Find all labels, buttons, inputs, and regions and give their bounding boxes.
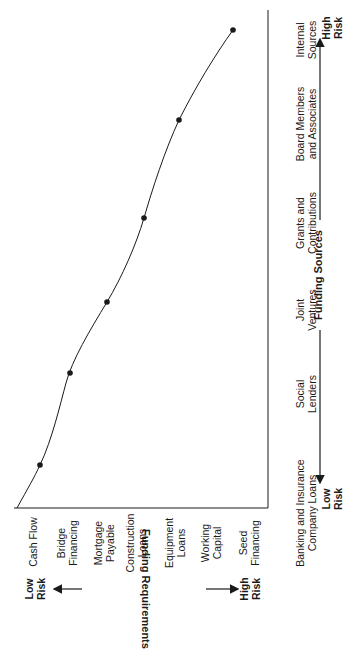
requirement-label-equipment-loans: Equipment Loans bbox=[164, 511, 190, 575]
data-point-banking bbox=[37, 462, 43, 468]
requirement-label-line: Financing bbox=[250, 513, 262, 573]
risk-label-line: Risk bbox=[333, 10, 345, 46]
requirement-label-line: Loans bbox=[176, 511, 188, 575]
sources-high-risk-label: High Risk bbox=[321, 10, 347, 46]
source-label-internal-sources: Internal Sources bbox=[295, 0, 321, 85]
requirement-label-line: Equipment bbox=[164, 511, 176, 575]
source-label-banking: Banking and Insurance Company Loans bbox=[295, 453, 321, 573]
source-label-line: Grants and bbox=[295, 168, 307, 278]
data-point-grants bbox=[141, 215, 147, 221]
risk-label-line: High bbox=[239, 571, 251, 607]
source-label-line: Sources bbox=[307, 0, 319, 85]
source-label-line: Lenders bbox=[307, 349, 319, 439]
requirements-low-risk-label: Low Risk bbox=[24, 571, 50, 607]
requirement-label-seed-financing: Seed Financing bbox=[238, 513, 264, 573]
requirements-high-risk-label: High Risk bbox=[239, 571, 265, 607]
source-label-line: Banking and Insurance bbox=[295, 453, 307, 573]
source-label-line: Internal bbox=[295, 0, 307, 85]
requirement-label-line: Capital bbox=[212, 513, 224, 573]
source-label-line: Joint bbox=[295, 265, 307, 355]
risk-label-line: Risk bbox=[36, 571, 48, 607]
source-label-line: Company Loans bbox=[307, 453, 319, 573]
risk-label-line: Low bbox=[24, 571, 36, 607]
sources-axis-title: Funding Sources bbox=[313, 225, 327, 325]
data-point-internal-sources bbox=[230, 27, 236, 33]
risk-label-line: Risk bbox=[333, 481, 345, 517]
requirement-label-mortgage-payable: Mortgage Payable bbox=[93, 513, 119, 573]
data-point-joint-ventures bbox=[104, 299, 110, 305]
source-label-line: Board Members bbox=[295, 69, 307, 179]
risk-label-line: High bbox=[321, 10, 333, 46]
source-label-board-members: Board Members and Associates bbox=[295, 69, 321, 179]
sources-low-risk-label: Low Risk bbox=[321, 481, 347, 517]
source-label-social-lenders: Social Lenders bbox=[295, 349, 321, 439]
requirement-label-line: Seed bbox=[238, 513, 250, 573]
requirement-label-line: Construction bbox=[125, 505, 137, 581]
requirement-label-line: Cash Flow bbox=[28, 512, 40, 572]
risk-curve bbox=[17, 30, 233, 508]
requirement-label-line: Mortgage bbox=[93, 513, 105, 573]
requirement-label-cash-flow: Cash Flow bbox=[28, 512, 42, 572]
risk-label-line: Risk bbox=[251, 571, 263, 607]
requirement-label-line: Working bbox=[200, 513, 212, 573]
requirements-axis-title: Funding Requirements bbox=[137, 529, 151, 649]
source-label-line: Social bbox=[295, 349, 307, 439]
requirement-label-working-capital: Working Capital bbox=[200, 513, 226, 573]
requirement-label-line: Financing bbox=[68, 513, 80, 573]
risk-label-line: Low bbox=[321, 481, 333, 517]
requirement-label-bridge-financing: Bridge Financing bbox=[56, 513, 82, 573]
requirement-label-line: Bridge bbox=[56, 513, 68, 573]
requirement-label-line: Payable bbox=[105, 513, 117, 573]
source-label-line: and Associates bbox=[307, 69, 319, 179]
data-point-board-members bbox=[176, 117, 182, 123]
data-point-social-lenders bbox=[67, 370, 73, 376]
